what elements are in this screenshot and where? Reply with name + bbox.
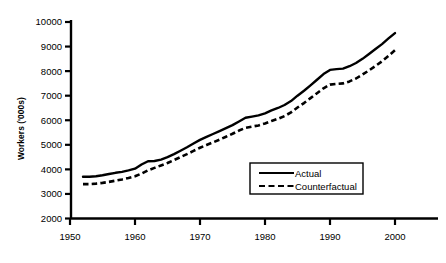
x-tick-label: 1990 xyxy=(319,231,340,242)
y-tick-label: 5000 xyxy=(41,139,62,150)
x-tick-label: 1970 xyxy=(189,231,210,242)
legend-label-counterfactual: Counterfactual xyxy=(295,181,357,192)
y-tick-label: 3000 xyxy=(41,188,62,199)
chart-container: 2000300040005000600070008000900010000 19… xyxy=(0,0,446,263)
y-axis-title: Workers ('000s) xyxy=(16,97,26,160)
y-tick-label: 8000 xyxy=(41,66,62,77)
x-tick-label: 2000 xyxy=(384,231,405,242)
line-chart: 2000300040005000600070008000900010000 19… xyxy=(0,0,446,263)
y-tick-label: 7000 xyxy=(41,90,62,101)
chart-background xyxy=(0,0,446,263)
y-tick-label: 9000 xyxy=(41,41,62,52)
x-tick-label: 1950 xyxy=(59,231,80,242)
y-tick-label: 2000 xyxy=(41,213,62,224)
legend-label-actual: Actual xyxy=(295,168,321,179)
x-tick-label: 1980 xyxy=(254,231,275,242)
y-tick-label: 4000 xyxy=(41,164,62,175)
y-tick-label: 10000 xyxy=(36,16,62,27)
x-tick-label: 1960 xyxy=(124,231,145,242)
chart-legend: Actual Counterfactual xyxy=(250,163,363,194)
y-tick-label: 6000 xyxy=(41,115,62,126)
